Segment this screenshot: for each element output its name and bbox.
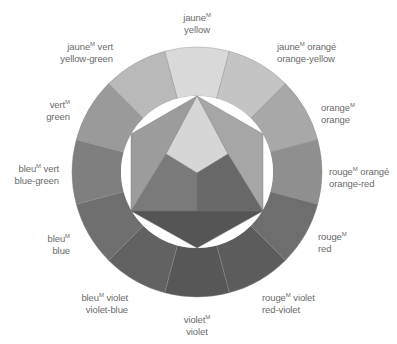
label-red-violet: rougeM violetred-violet: [262, 292, 315, 315]
label-orange: orangeMorange: [321, 102, 355, 125]
superscript-m: M: [65, 233, 70, 239]
label-english: blue: [48, 245, 70, 257]
superscript-m: M: [350, 102, 355, 108]
label-yellow: jauneMyellow: [183, 12, 211, 35]
label-english: green: [46, 111, 70, 123]
label-english: orange: [321, 114, 355, 126]
label-english: yellow-green: [60, 53, 113, 65]
superscript-m: M: [286, 292, 291, 298]
superscript-m: M: [342, 231, 347, 237]
label-yellow-green: jauneM vertyellow-green: [60, 41, 113, 64]
superscript-m: M: [36, 163, 41, 169]
label-violet-blue: bleuM violetviolet-blue: [81, 292, 128, 315]
superscript-m: M: [65, 99, 70, 105]
label-red: rougeMred: [318, 231, 347, 254]
label-french: rougeM orangé: [329, 166, 389, 178]
label-french: bleuM violet: [81, 292, 128, 304]
label-french: jauneM: [183, 12, 211, 24]
label-french: violetM: [184, 314, 210, 326]
superscript-m: M: [300, 41, 305, 47]
label-green: vertMgreen: [46, 99, 70, 122]
label-english: violet-blue: [81, 304, 128, 316]
label-english: orange-yellow: [277, 53, 336, 65]
label-french: bleuM vert: [15, 163, 59, 175]
superscript-m: M: [353, 166, 358, 172]
label-english: red: [318, 243, 347, 255]
label-french: rougeM violet: [262, 292, 315, 304]
superscript-m: M: [206, 12, 211, 18]
label-orange-red: rougeM orangéorange-red: [329, 166, 389, 189]
superscript-m: M: [90, 41, 95, 47]
superscript-m: M: [205, 314, 210, 320]
label-english: violet: [184, 326, 210, 338]
label-french: rougeM: [318, 231, 347, 243]
label-violet: violetMviolet: [184, 314, 210, 337]
superscript-m: M: [99, 292, 104, 298]
label-french: orangeM: [321, 102, 355, 114]
label-english: red-violet: [262, 304, 315, 316]
label-english: orange-red: [329, 178, 389, 190]
label-orange-yellow: jauneM orangéorange-yellow: [277, 41, 336, 64]
label-french: bleuM: [48, 233, 70, 245]
label-blue: bleuMblue: [48, 233, 70, 256]
label-french: vertM: [46, 99, 70, 111]
label-english: yellow: [183, 24, 211, 36]
label-blue-green: bleuM vertblue-green: [15, 163, 59, 186]
label-english: blue-green: [15, 175, 59, 187]
label-french: jauneM vert: [60, 41, 113, 53]
label-french: jauneM orangé: [277, 41, 336, 53]
